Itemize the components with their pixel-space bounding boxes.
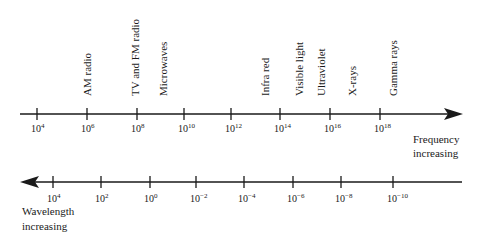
band-label: Visible light xyxy=(293,42,305,96)
tick-label: 10−10 xyxy=(387,192,408,204)
tick-label: 1010 xyxy=(178,122,196,134)
tick-label: 10−8 xyxy=(335,192,353,204)
tick-label: 106 xyxy=(81,122,95,134)
band-label: TV and FM radio xyxy=(129,18,141,96)
band-label: Ultraviolet xyxy=(315,48,327,96)
tick-label: 10−6 xyxy=(287,192,305,204)
tick-label: 100 xyxy=(144,192,158,204)
wavelength-axis: 10410210010−210−410−610−810−10 Wavelengt… xyxy=(20,176,462,232)
tick-label: 10−2 xyxy=(190,192,208,204)
band-label: Gamma rays xyxy=(387,40,399,96)
band-label: Infra red xyxy=(259,57,271,96)
band-labels: AM radioTV and FM radioMicrowavesInfra r… xyxy=(81,18,399,96)
frequency-axis: 10410610810101012101410161018 Frequency … xyxy=(20,108,463,159)
tick-label: 1018 xyxy=(374,122,392,134)
wavelength-caption-line2: increasing xyxy=(22,220,68,232)
frequency-caption-line2: increasing xyxy=(413,147,459,159)
tick-label: 1016 xyxy=(324,122,342,134)
tick-label: 104 xyxy=(47,192,61,204)
tick-label: 1014 xyxy=(274,122,292,134)
wavelength-ticks: 10410210010−210−410−610−810−10 xyxy=(47,176,408,204)
band-label: AM radio xyxy=(81,52,93,96)
tick-label: 102 xyxy=(95,192,109,204)
band-label: Microwaves xyxy=(157,42,169,96)
tick-label: 104 xyxy=(31,122,45,134)
band-label: X-rays xyxy=(346,66,358,96)
frequency-ticks: 10410610810101012101410161018 xyxy=(31,108,392,134)
tick-label: 10−4 xyxy=(238,192,256,204)
tick-label: 1012 xyxy=(225,122,243,134)
em-spectrum-diagram: 10410610810101012101410161018 Frequency … xyxy=(0,0,482,236)
frequency-caption-line1: Frequency xyxy=(413,133,460,145)
tick-label: 108 xyxy=(131,122,145,134)
wavelength-caption-line1: Wavelength xyxy=(22,205,75,217)
